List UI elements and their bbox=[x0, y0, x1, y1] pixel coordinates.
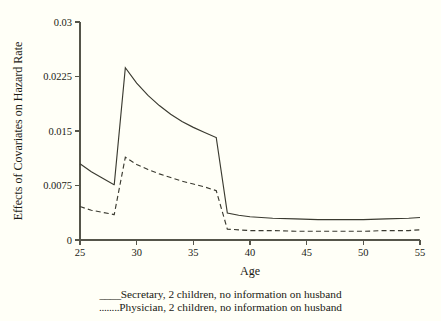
legend-label-secretary: Secretary, 2 children, no information on… bbox=[121, 288, 342, 300]
chart-legend: ____Secretary, 2 children, no informatio… bbox=[0, 288, 441, 315]
legend-key-solid: ____ bbox=[99, 288, 120, 300]
x-tick-label: 35 bbox=[188, 247, 199, 258]
x-tick-label: 30 bbox=[131, 247, 142, 258]
y-axis-title: Effects of Covariates on Hazard Rate bbox=[11, 42, 25, 221]
x-tick-label: 55 bbox=[415, 247, 426, 258]
legend-item: ........Physician, 2 children, no inform… bbox=[0, 301, 441, 314]
x-tick-label: 25 bbox=[75, 247, 86, 258]
x-tick-label: 40 bbox=[245, 247, 256, 258]
series-line-solid bbox=[80, 68, 420, 220]
axes bbox=[75, 22, 420, 245]
series-group bbox=[80, 68, 420, 232]
chart-plot-area: 00.00750.0150.02250.0325303540455055AgeE… bbox=[0, 0, 441, 321]
series-line-dashed bbox=[80, 157, 420, 231]
legend-label-physician: Physician, 2 children, no information on… bbox=[119, 301, 342, 313]
y-tick-label: 0.0225 bbox=[43, 71, 72, 82]
legend-key-dashed: ........ bbox=[99, 301, 119, 313]
y-tick-label: 0.015 bbox=[48, 126, 72, 137]
x-tick-label: 50 bbox=[358, 247, 369, 258]
y-tick-label: 0.03 bbox=[54, 17, 72, 28]
x-axis-title: Age bbox=[240, 264, 260, 278]
y-tick-label: 0 bbox=[67, 235, 72, 246]
x-tick-label: 45 bbox=[301, 247, 312, 258]
legend-item: ____Secretary, 2 children, no informatio… bbox=[0, 288, 441, 301]
hazard-rate-figure: 00.00750.0150.02250.0325303540455055AgeE… bbox=[0, 0, 441, 321]
y-tick-label: 0.0075 bbox=[43, 180, 72, 191]
